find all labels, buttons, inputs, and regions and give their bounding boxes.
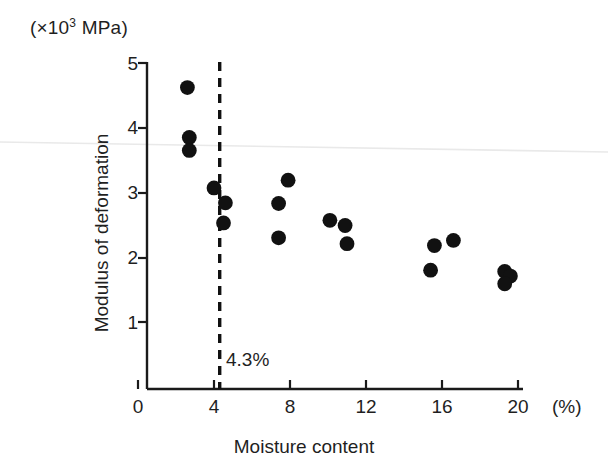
data-point	[427, 238, 442, 253]
data-point	[207, 181, 222, 196]
data-point	[271, 196, 286, 211]
data-point	[338, 218, 353, 233]
data-point	[180, 80, 195, 95]
scan-artifact-line	[0, 142, 608, 152]
data-point	[497, 276, 512, 291]
data-point	[281, 173, 296, 188]
data-point	[340, 236, 355, 251]
data-point-group	[180, 80, 518, 291]
data-point	[216, 216, 231, 231]
data-point	[182, 130, 197, 145]
data-point	[271, 230, 286, 245]
data-point	[323, 213, 338, 228]
data-point	[218, 195, 233, 210]
data-point	[182, 143, 197, 158]
plot-area	[0, 0, 608, 473]
data-point	[423, 263, 438, 278]
scatter-chart: (×103 MPa) Modulus of deformation 5 4 3 …	[0, 0, 608, 473]
data-point	[446, 233, 461, 248]
